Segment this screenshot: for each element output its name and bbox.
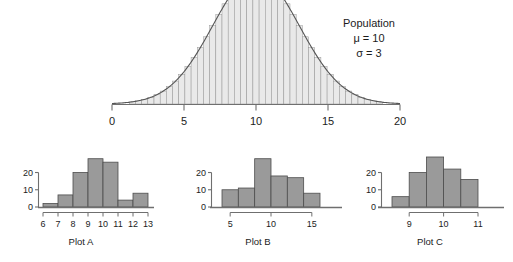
population-strip [247, 0, 253, 104]
plot-b-panel: 0102051015 Plot B [196, 159, 342, 247]
population-strip [333, 81, 339, 104]
histogram-bar [444, 169, 461, 207]
y-tick-label: 0 [371, 202, 376, 212]
y-tick-label: 0 [28, 202, 33, 212]
population-strip [284, 4, 290, 104]
population-strip [173, 81, 179, 104]
plot-a-panel: 01020678910111213 Plot A [23, 159, 154, 247]
population-tick-label: 10 [250, 115, 262, 127]
histogram-bar [73, 173, 88, 207]
histogram-bar [88, 159, 103, 207]
population-strip [253, 0, 259, 104]
y-tick-label: 10 [366, 185, 376, 195]
population-strip [309, 48, 315, 104]
histogram-bar [392, 197, 409, 207]
population-strip [197, 48, 203, 104]
x-tick-label: 12 [128, 219, 138, 229]
population-strip [271, 0, 277, 104]
annotation-sigma: σ = 3 [356, 47, 381, 59]
y-tick-label: 10 [23, 185, 33, 195]
population-strip [191, 58, 197, 104]
y-tick-label: 20 [366, 168, 376, 178]
x-tick-label: 10 [266, 219, 276, 229]
figure-canvas: 05101520 Population μ = 10 σ = 3 0102067… [0, 0, 513, 262]
population-annotation: Population μ = 10 σ = 3 [343, 17, 395, 59]
population-strip [302, 37, 308, 104]
histogram-bar [255, 159, 271, 207]
x-tick-label: 8 [70, 219, 75, 229]
statistics-figure: 05101520 Population μ = 10 σ = 3 0102067… [0, 0, 513, 262]
plot-a-bars [43, 159, 148, 207]
y-tick-label: 20 [196, 168, 206, 178]
plot-c-label: Plot C [417, 236, 443, 247]
x-tick-label: 7 [55, 219, 60, 229]
plot-b-bars [222, 159, 320, 207]
population-strip [234, 0, 240, 104]
histogram-bar [409, 173, 426, 207]
population-strip [278, 0, 284, 104]
annotation-mu: μ = 10 [353, 32, 384, 44]
population-tick-label: 20 [394, 115, 406, 127]
population-tick-label: 15 [322, 115, 334, 127]
histogram-bar [222, 190, 238, 207]
annotation-title: Population [343, 17, 395, 29]
histogram-bar [133, 193, 148, 207]
population-strip [166, 87, 172, 104]
population-strip [203, 37, 209, 104]
y-tick-label: 0 [201, 202, 206, 212]
histogram-bar [287, 178, 303, 207]
population-strip [339, 87, 345, 104]
x-tick-label: 9 [85, 219, 90, 229]
population-tick-label: 5 [181, 115, 187, 127]
histogram-bar [103, 162, 118, 207]
population-strip [296, 26, 302, 104]
x-tick-label: 11 [473, 219, 482, 229]
histogram-bar [43, 204, 58, 207]
population-strip [327, 74, 333, 104]
x-tick-label: 15 [307, 219, 317, 229]
histogram-bar [304, 193, 320, 207]
plot-c-panel: 0102091011 Plot C [366, 157, 504, 247]
population-strip [216, 15, 222, 105]
population-tick-label: 0 [109, 115, 115, 127]
population-strip [315, 58, 321, 104]
plot-a-label: Plot A [69, 236, 94, 247]
histogram-bar [271, 176, 287, 207]
y-tick-label: 10 [196, 185, 206, 195]
population-strip [241, 0, 247, 104]
x-tick-label: 11 [113, 219, 122, 229]
population-strip [290, 15, 296, 105]
x-tick-label: 9 [407, 219, 412, 229]
histogram-bar [58, 195, 73, 207]
x-tick-label: 6 [40, 219, 45, 229]
population-strip [321, 67, 327, 104]
histogram-bar [118, 200, 133, 207]
population-strip [179, 74, 185, 104]
population-strip [228, 0, 234, 104]
population-strip [185, 67, 191, 104]
population-strip [259, 0, 265, 104]
histogram-bar [461, 179, 478, 207]
x-tick-label: 5 [228, 219, 233, 229]
x-tick-label: 10 [439, 219, 449, 229]
x-tick-label: 10 [98, 219, 108, 229]
population-strip [265, 0, 271, 104]
plot-b-label: Plot B [245, 236, 270, 247]
population-axis-ticks [112, 105, 400, 111]
plot-c-bars [392, 157, 478, 207]
x-tick-label: 13 [143, 219, 153, 229]
histogram-bar [238, 188, 254, 207]
y-tick-label: 20 [23, 168, 33, 178]
population-axis-tick-labels: 05101520 [109, 115, 406, 127]
population-strip [210, 26, 216, 104]
histogram-bar [426, 157, 443, 207]
population-strip [222, 4, 228, 104]
